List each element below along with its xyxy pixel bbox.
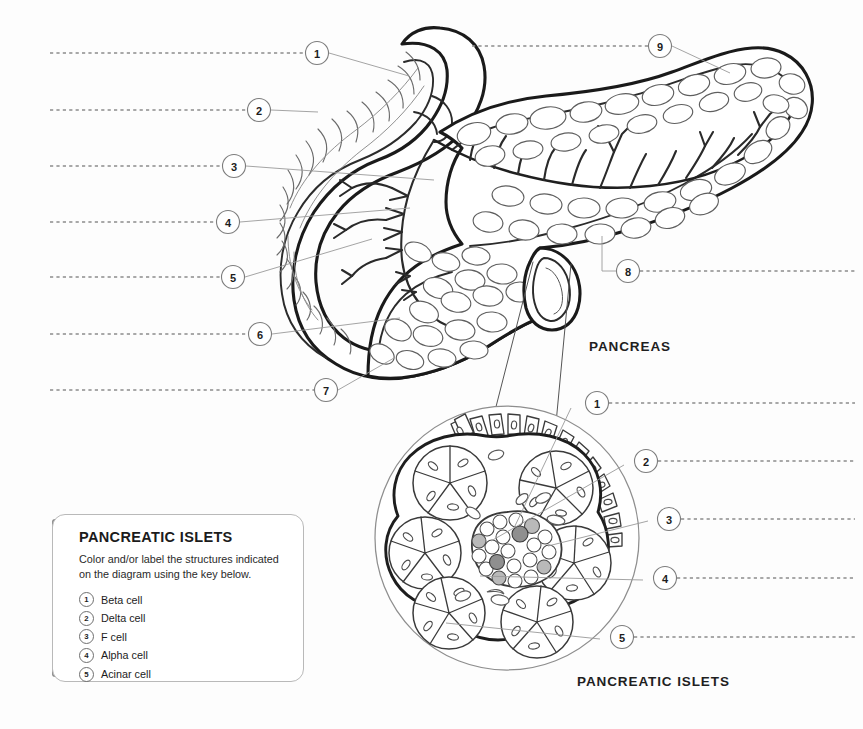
callout-number: 3 xyxy=(231,161,237,173)
callout-pancreas-6[interactable]: 6 xyxy=(249,323,272,346)
callout-number: 1 xyxy=(594,398,600,410)
callout-number: 6 xyxy=(257,329,263,341)
callout-islet-5[interactable]: 5 xyxy=(611,626,634,649)
diagram-page: 12345678912345 PANCREAS PANCREATIC ISLET… xyxy=(0,0,863,729)
callout-number: 2 xyxy=(256,105,262,117)
callout-pancreas-4[interactable]: 4 xyxy=(217,211,240,234)
legend-title: PANCREATIC ISLETS xyxy=(79,529,287,545)
callout-number: 7 xyxy=(323,385,329,397)
legend-key-number: 2 xyxy=(79,611,94,626)
callout-islet-1[interactable]: 1 xyxy=(586,392,609,415)
callout-number: 3 xyxy=(666,514,672,526)
callout-number: 9 xyxy=(657,41,663,53)
callout-islet-3[interactable]: 3 xyxy=(658,508,681,531)
legend-key-label: F cell xyxy=(101,631,127,643)
legend-key-number: 3 xyxy=(79,629,94,644)
legend-key-item[interactable]: 3F cell xyxy=(79,629,287,644)
callout-number: 4 xyxy=(225,217,232,229)
legend-key-number: 4 xyxy=(79,648,94,663)
legend-description: Color and/or label the structures indica… xyxy=(79,552,287,581)
callout-pancreas-5[interactable]: 5 xyxy=(222,266,245,289)
legend-key-label: Delta cell xyxy=(101,612,145,624)
callout-pancreas-1[interactable]: 1 xyxy=(306,42,329,65)
legend-key-label: Acinar cell xyxy=(101,668,151,680)
callout-number: 5 xyxy=(619,632,625,644)
callout-number: 8 xyxy=(625,266,631,278)
callout-pancreas-8[interactable]: 8 xyxy=(617,260,640,283)
callout-pancreas-7[interactable]: 7 xyxy=(315,379,338,402)
callout-islet-2[interactable]: 2 xyxy=(635,450,658,473)
pancreas-caption: PANCREAS xyxy=(589,339,671,354)
callout-pancreas-2[interactable]: 2 xyxy=(248,99,271,122)
legend-key-item[interactable]: 5Acinar cell xyxy=(79,667,287,682)
callout-number: 4 xyxy=(662,573,669,585)
callout-number: 2 xyxy=(643,456,649,468)
legend-card: PANCREATIC ISLETS Color and/or label the… xyxy=(52,514,304,682)
legend-key-number: 5 xyxy=(79,667,94,682)
legend-key-list: 1Beta cell2Delta cell3F cell4Alpha cell5… xyxy=(79,592,287,681)
callout-pancreas-3[interactable]: 3 xyxy=(223,155,246,178)
legend-key-label: Alpha cell xyxy=(101,649,148,661)
legend-key-number: 1 xyxy=(79,592,94,607)
legend-key-item[interactable]: 2Delta cell xyxy=(79,611,287,626)
callout-pancreas-9[interactable]: 9 xyxy=(649,35,672,58)
callout-number: 1 xyxy=(314,48,320,60)
legend-key-label: Beta cell xyxy=(101,594,142,606)
pancreatic-islets-caption: PANCREATIC ISLETS xyxy=(577,674,730,689)
callout-islet-4[interactable]: 4 xyxy=(654,567,677,590)
legend-key-item[interactable]: 4Alpha cell xyxy=(79,648,287,663)
callout-number: 5 xyxy=(230,272,236,284)
legend-key-item[interactable]: 1Beta cell xyxy=(79,592,287,607)
